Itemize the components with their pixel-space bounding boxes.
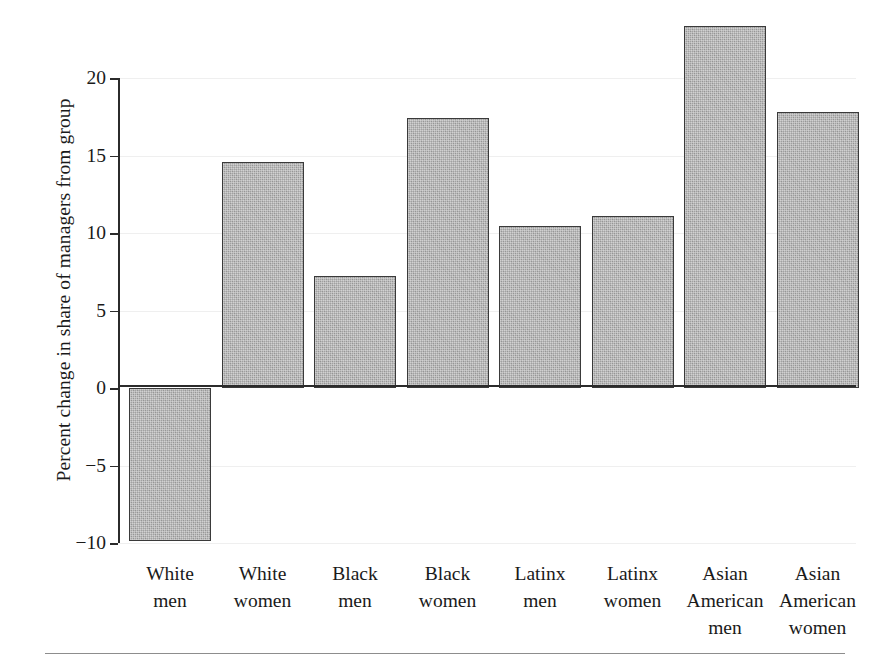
bar (222, 162, 304, 388)
bar (777, 112, 859, 388)
bar (684, 26, 766, 388)
y-tick-mark (110, 156, 118, 158)
y-tick-label: 0 (96, 377, 106, 399)
y-tick-label: 10 (87, 222, 107, 244)
gridline (118, 466, 856, 467)
y-tick-label: 5 (96, 300, 106, 322)
bottom-divider-rule (45, 653, 845, 654)
bar (499, 226, 581, 388)
y-tick-label: 20 (87, 67, 107, 89)
y-tick-mark (110, 78, 118, 80)
zero-baseline (118, 385, 856, 387)
bar (129, 388, 211, 541)
x-axis-category-label: Asian American women (748, 560, 886, 641)
y-tick-mark (110, 543, 118, 545)
bar (314, 276, 396, 388)
y-tick-mark (110, 388, 118, 390)
bar (407, 118, 489, 388)
bar (592, 216, 674, 388)
y-axis-spine (118, 78, 120, 543)
gridline (118, 543, 856, 544)
y-tick-mark (110, 233, 118, 235)
y-tick-label: 15 (87, 145, 107, 167)
bar-chart-figure: Percent change in share of managers from… (0, 0, 886, 668)
y-tick-mark (110, 466, 118, 468)
plot-area: 20151050−5−10 (118, 78, 856, 556)
y-tick-mark (110, 311, 118, 313)
y-tick-label: −5 (85, 455, 106, 477)
y-tick-label: −10 (76, 532, 107, 554)
y-axis-title: Percent change in share of managers from… (48, 40, 80, 540)
